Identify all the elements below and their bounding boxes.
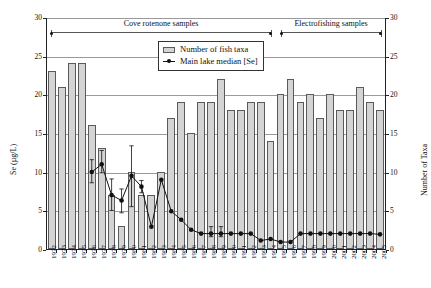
se-marker-2004: [368, 231, 373, 236]
x-label-cell: 1973: [56, 252, 66, 288]
x-label-cell: 1988: [206, 252, 216, 288]
y-axis-left-title: Se (µg/L): [9, 144, 18, 175]
y-tick-left-30: 30: [35, 14, 43, 22]
bar-swatch-icon: [163, 47, 175, 53]
annotation-dot-left: [50, 32, 53, 35]
se-marker-1979: [119, 198, 124, 203]
x-label-cell: 1998: [306, 252, 316, 288]
y-tick-right-25: 25: [390, 53, 398, 61]
y-tick-left-20: 20: [35, 91, 43, 99]
x-axis-labels: 1972197319741975197619771978197919801981…: [46, 252, 386, 288]
se-marker-1999: [318, 231, 323, 236]
y-axis-right-title: Number of Taxa: [420, 144, 429, 196]
annotation-label-0: Cove rotenone samples: [121, 20, 202, 28]
se-marker-1990: [229, 231, 234, 236]
x-label-cell: 1992: [246, 252, 256, 288]
x-label-cell: 1995: [276, 252, 286, 288]
x-label-cell: 2005: [376, 252, 386, 288]
x-label-cell: 1991: [236, 252, 246, 288]
y-tick-right-10: 10: [390, 169, 398, 177]
x-label-cell: 1997: [296, 252, 306, 288]
legend-item-se-median: Main lake median [Se]: [163, 56, 258, 67]
se-marker-1994: [268, 237, 273, 242]
se-marker-1998: [308, 231, 313, 236]
y-tickmark-right-10: [386, 173, 389, 174]
y-tick-left-5: 5: [38, 207, 42, 215]
x-label-cell: 2002: [346, 252, 356, 288]
y-tick-right-5: 5: [390, 207, 394, 215]
y-tick-left-10: 10: [35, 169, 43, 177]
x-label-cell: 2003: [356, 252, 366, 288]
se-marker-2002: [348, 231, 353, 236]
annotation-dot-right: [379, 32, 382, 35]
se-marker-2001: [338, 231, 343, 236]
x-label-cell: 1989: [216, 252, 226, 288]
x-label-cell: 1974: [66, 252, 76, 288]
x-label-cell: 1972: [46, 252, 56, 288]
se-marker-1980: [129, 174, 134, 179]
se-marker-1986: [189, 227, 194, 232]
x-label-cell: 2001: [336, 252, 346, 288]
se-marker-1995: [278, 240, 283, 245]
se-marker-1997: [298, 231, 303, 236]
x-tick-label-2005: 2005: [381, 245, 388, 259]
se-marker-1977: [99, 162, 104, 167]
annotation-bracket-1: [281, 32, 381, 33]
y-tickmark-right-15: [386, 134, 389, 135]
x-label-cell: 1979: [116, 252, 126, 288]
se-marker-1981: [139, 184, 144, 189]
x-label-cell: 1984: [166, 252, 176, 288]
se-marker-1987: [199, 231, 204, 236]
x-label-cell: 1993: [256, 252, 266, 288]
se-marker-1984: [169, 209, 174, 214]
annotation-dot-left: [280, 32, 283, 35]
se-marker-1989: [219, 231, 224, 236]
x-label-cell: 1987: [196, 252, 206, 288]
y-tickmark-right-5: [386, 211, 389, 212]
y-tick-left-0: 0: [38, 246, 42, 254]
y-tick-right-0: 0: [390, 246, 394, 254]
x-label-cell: 1975: [76, 252, 86, 288]
se-marker-1978: [109, 193, 114, 198]
se-marker-2003: [358, 231, 363, 236]
y-tick-left-25: 25: [35, 53, 43, 61]
x-label-cell: 1980: [126, 252, 136, 288]
y-tick-right-20: 20: [390, 91, 398, 99]
x-label-cell: 1985: [176, 252, 186, 288]
legend-item-fish-taxa: Number of fish taxa: [163, 44, 258, 55]
x-label-cell: 1983: [156, 252, 166, 288]
se-marker-2000: [328, 231, 333, 236]
legend-label-fish-taxa: Number of fish taxa: [180, 45, 248, 54]
x-label-cell: 1996: [286, 252, 296, 288]
y-tick-left-15: 15: [35, 130, 43, 138]
x-label-cell: 1990: [226, 252, 236, 288]
se-marker-1996: [288, 240, 293, 245]
se-median-line: [92, 164, 380, 242]
x-label-cell: 1999: [316, 252, 326, 288]
y-tickmark-right-30: [386, 18, 389, 19]
se-marker-1983: [159, 177, 164, 182]
se-marker-1985: [179, 217, 184, 222]
chart-legend: Number of fish taxa Main lake median [Se…: [158, 41, 264, 71]
se-marker-1982: [149, 224, 154, 229]
y-tickmark-right-20: [386, 95, 389, 96]
se-marker-2005: [378, 232, 383, 237]
legend-label-se-median: Main lake median [Se]: [180, 57, 258, 66]
se-marker-1992: [249, 231, 254, 236]
annotation-bracket-0: [51, 32, 271, 33]
x-label-cell: 2004: [366, 252, 376, 288]
line-dot-swatch-icon: [163, 59, 175, 65]
y-tick-right-30: 30: [390, 14, 398, 22]
x-label-cell: 1978: [106, 252, 116, 288]
se-marker-1991: [239, 231, 244, 236]
se-marker-1976: [89, 170, 94, 175]
chart-container: Se (µg/L) Number of Taxa 051015202530 05…: [0, 0, 431, 288]
y-tick-right-15: 15: [390, 130, 398, 138]
x-label-cell: 1994: [266, 252, 276, 288]
se-marker-1988: [209, 231, 214, 236]
se-marker-1993: [258, 238, 263, 243]
annotation-label-1: Electrofishing samples: [291, 20, 370, 28]
x-label-cell: 1976: [86, 252, 96, 288]
x-label-cell: 1982: [146, 252, 156, 288]
annotation-dot-right: [269, 32, 272, 35]
